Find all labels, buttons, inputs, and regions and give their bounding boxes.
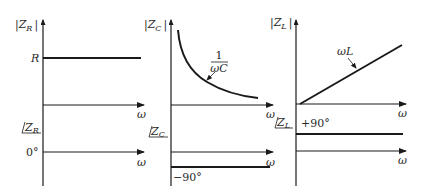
resistor-phase-label: ZR bbox=[22, 121, 41, 135]
svg-text:ωL: ωL bbox=[337, 45, 353, 58]
inductor-phase-label: ZL bbox=[275, 116, 293, 130]
resistor-panel: |ZR| R ω ZR 0° ω bbox=[15, 18, 146, 186]
svg-text:ωC: ωC bbox=[210, 62, 228, 75]
resistor-phase-value: 0° bbox=[26, 146, 39, 159]
capacitor-mag-label: |ZC| bbox=[144, 18, 167, 33]
capacitor-phase-label: ZC bbox=[149, 125, 168, 139]
resistor-omega-label: ω bbox=[137, 108, 146, 121]
inductor-mag-label: |ZL| bbox=[270, 16, 292, 31]
pointer-arrow-icon bbox=[348, 58, 356, 68]
capacitor-phase-omega-label: ω bbox=[266, 156, 275, 169]
inductor-phase-omega-label: ω bbox=[398, 154, 407, 167]
impedance-diagram: |ZR| R ω ZR 0° ω |ZC| 1 ωC ω ZC ω −90° bbox=[0, 0, 427, 195]
resistor-phase-omega-label: ω bbox=[137, 156, 146, 169]
resistor-mag-label: |ZR| bbox=[15, 18, 38, 33]
inductor-line-label: ωL bbox=[337, 45, 356, 68]
capacitor-panel: |ZC| 1 ωC ω ZC ω −90° bbox=[144, 18, 275, 186]
inductor-phase-value: +90° bbox=[301, 117, 330, 130]
capacitor-phase-value: −90° bbox=[173, 171, 202, 184]
inductor-omega-label: ω bbox=[398, 107, 407, 120]
resistor-level-label: R bbox=[30, 52, 39, 65]
capacitor-omega-label: ω bbox=[266, 108, 275, 121]
inductor-panel: |ZL| ωL ω ZL +90° ω bbox=[270, 16, 407, 186]
svg-text:1: 1 bbox=[216, 49, 223, 62]
capacitor-curve-label: 1 ωC bbox=[207, 49, 228, 80]
